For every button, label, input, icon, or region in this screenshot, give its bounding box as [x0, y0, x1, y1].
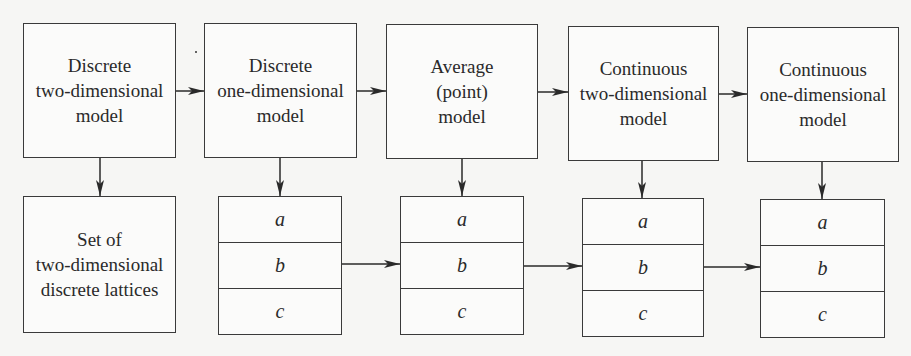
continuous-one-dimensional-model-box: Continuous one-dimensional model: [747, 27, 899, 162]
stack-cell-a: a: [401, 197, 523, 243]
abc-stack-2: a b c: [400, 196, 524, 335]
box-line: Continuous: [600, 56, 688, 81]
abc-stack-4: a b c: [760, 199, 885, 338]
box-line: Set of: [77, 227, 122, 252]
stack-cell-b: b: [219, 243, 341, 289]
discrete-lattices-box: Set of two-dimensional discrete lattices: [23, 196, 176, 333]
stack-cell-b: b: [401, 243, 523, 289]
discrete-two-dimensional-model-box: Discrete two-dimensional model: [23, 23, 176, 158]
box-line: discrete lattices: [41, 277, 159, 302]
continuous-two-dimensional-model-box: Continuous two-dimensional model: [568, 26, 719, 161]
stack-cell-b: b: [583, 245, 703, 291]
stack-cell-c: c: [761, 292, 884, 337]
box-line: model: [76, 103, 124, 128]
discrete-one-dimensional-model-box: Discrete one-dimensional model: [204, 23, 357, 158]
box-line: one-dimensional: [217, 78, 344, 103]
stack-cell-c: c: [401, 289, 523, 334]
stack-cell-c: c: [219, 289, 341, 334]
stack-cell-b: b: [761, 246, 884, 292]
box-line: model: [799, 107, 847, 132]
stack-cell-a: a: [219, 197, 341, 243]
box-line: two-dimensional: [36, 252, 164, 277]
box-line: (point): [436, 79, 488, 104]
box-line: Discrete: [68, 53, 131, 78]
box-line: two-dimensional: [36, 78, 164, 103]
stray-dot: [195, 51, 197, 53]
box-line: Average: [431, 54, 494, 79]
box-line: Continuous: [779, 57, 867, 82]
box-line: two-dimensional: [580, 81, 708, 106]
stack-cell-c: c: [583, 291, 703, 336]
average-point-model-box: Average (point) model: [386, 24, 538, 159]
box-line: model: [257, 103, 305, 128]
abc-stack-3: a b c: [582, 198, 704, 337]
box-line: Discrete: [249, 53, 312, 78]
box-line: model: [620, 106, 668, 131]
abc-stack-1: a b c: [218, 196, 342, 335]
stack-cell-a: a: [583, 199, 703, 245]
stack-cell-a: a: [761, 200, 884, 246]
box-line: model: [438, 104, 486, 129]
box-line: one-dimensional: [760, 82, 887, 107]
